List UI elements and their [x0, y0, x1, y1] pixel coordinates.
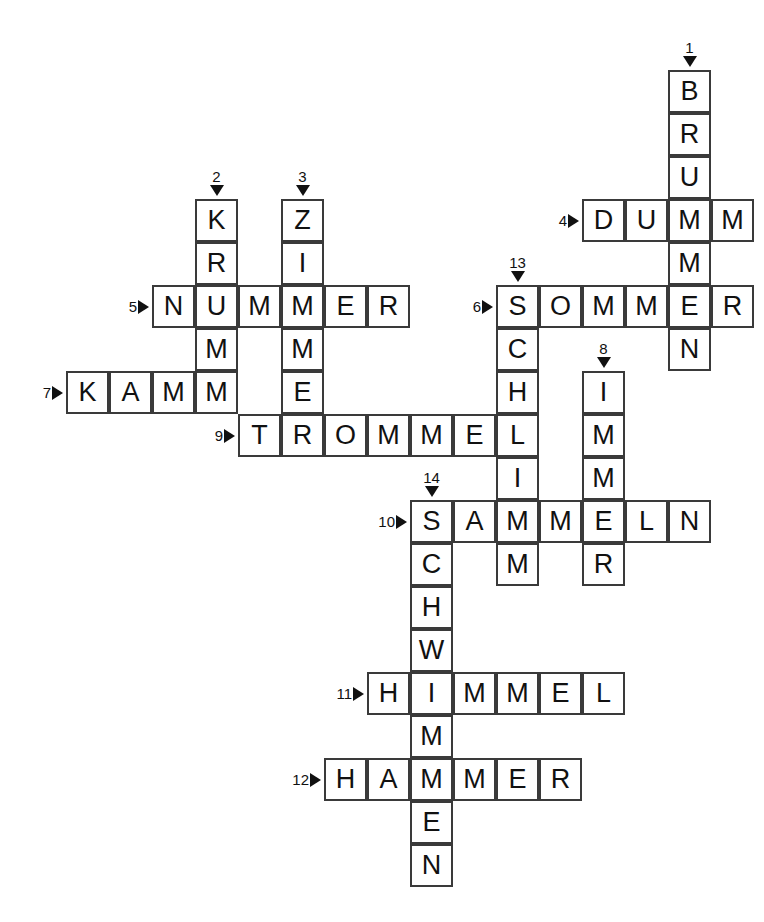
grid-cell[interactable]: H	[367, 672, 410, 715]
clue-marker-13-down[interactable]: 13	[496, 252, 539, 286]
clue-marker-6-across[interactable]: 6	[456, 285, 493, 328]
grid-cell[interactable]: I	[410, 672, 453, 715]
grid-cell[interactable]: Z	[281, 199, 324, 242]
clue-marker-2-down[interactable]: 2	[195, 166, 238, 200]
grid-cell[interactable]: R	[711, 285, 754, 328]
clue-marker-5-across[interactable]: 5	[112, 285, 149, 328]
grid-cell[interactable]: R	[668, 113, 711, 156]
grid-cell[interactable]: R	[582, 543, 625, 586]
grid-cell[interactable]: M	[711, 199, 754, 242]
grid-cell[interactable]: I	[582, 371, 625, 414]
grid-cell[interactable]: O	[324, 414, 367, 457]
grid-cell[interactable]: E	[668, 285, 711, 328]
clue-marker-11-across[interactable]: 11	[327, 672, 364, 715]
grid-cell[interactable]: A	[453, 500, 496, 543]
grid-cell[interactable]: M	[238, 285, 281, 328]
grid-cell[interactable]: M	[281, 328, 324, 371]
grid-cell[interactable]: M	[668, 242, 711, 285]
grid-cell[interactable]: M	[367, 414, 410, 457]
clue-number: 7	[43, 385, 51, 400]
clue-number: 13	[509, 256, 526, 270]
grid-cell[interactable]: H	[496, 371, 539, 414]
grid-cell[interactable]: H	[324, 758, 367, 801]
clue-marker-4-across[interactable]: 4	[542, 199, 579, 242]
grid-cell[interactable]: M	[496, 543, 539, 586]
grid-cell[interactable]: T	[238, 414, 281, 457]
grid-cell[interactable]: R	[367, 285, 410, 328]
grid-cell[interactable]: U	[625, 199, 668, 242]
grid-cell[interactable]: M	[453, 758, 496, 801]
grid-cell[interactable]: E	[410, 801, 453, 844]
grid-cell[interactable]: S	[410, 500, 453, 543]
arrow-right-icon	[568, 214, 579, 228]
clue-marker-14-down[interactable]: 14	[410, 467, 453, 501]
clue-marker-7-across[interactable]: 7	[26, 371, 63, 414]
grid-cell[interactable]: B	[668, 70, 711, 113]
grid-cell[interactable]: U	[668, 156, 711, 199]
grid-cell[interactable]: M	[410, 715, 453, 758]
arrow-right-icon	[52, 386, 63, 400]
clue-marker-1-down[interactable]: 1	[668, 37, 711, 71]
grid-cell[interactable]: E	[496, 758, 539, 801]
grid-cell[interactable]: M	[668, 199, 711, 242]
grid-cell[interactable]: L	[582, 672, 625, 715]
grid-cell[interactable]: L	[496, 414, 539, 457]
grid-cell[interactable]: N	[668, 328, 711, 371]
grid-cell[interactable]: L	[625, 500, 668, 543]
grid-cell[interactable]: M	[152, 371, 195, 414]
grid-cell[interactable]: D	[582, 199, 625, 242]
grid-cell[interactable]: E	[453, 414, 496, 457]
grid-cell[interactable]: C	[410, 543, 453, 586]
grid-cell[interactable]: R	[281, 414, 324, 457]
clue-number: 11	[336, 686, 352, 701]
grid-cell[interactable]: R	[539, 758, 582, 801]
clue-marker-8-down[interactable]: 8	[582, 338, 625, 372]
grid-cell[interactable]: M	[281, 285, 324, 328]
clue-marker-10-across[interactable]: 10	[370, 500, 407, 543]
arrow-down-icon	[210, 185, 224, 196]
grid-cell[interactable]: M	[625, 285, 668, 328]
grid-cell[interactable]: E	[539, 672, 582, 715]
grid-cell[interactable]: M	[582, 414, 625, 457]
grid-cell[interactable]: N	[152, 285, 195, 328]
grid-cell[interactable]: U	[195, 285, 238, 328]
grid-cell[interactable]: M	[496, 500, 539, 543]
clue-marker-3-down[interactable]: 3	[281, 166, 324, 200]
grid-cell[interactable]: K	[66, 371, 109, 414]
grid-cell[interactable]: M	[195, 371, 238, 414]
grid-cell[interactable]: M	[496, 672, 539, 715]
grid-cell[interactable]: K	[195, 199, 238, 242]
grid-cell[interactable]: I	[281, 242, 324, 285]
arrow-down-icon	[597, 357, 611, 368]
grid-cell[interactable]: W	[410, 629, 453, 672]
grid-cell[interactable]: O	[539, 285, 582, 328]
grid-cell[interactable]: M	[539, 500, 582, 543]
clue-number: 10	[378, 514, 395, 529]
grid-cell[interactable]: E	[324, 285, 367, 328]
clue-number: 5	[129, 299, 137, 314]
grid-cell[interactable]: M	[195, 328, 238, 371]
crossword-puzzle: BRUKZDUMMRIMNUMMERSOMMERMMCNKAMMEHITROMM…	[0, 0, 764, 922]
clue-marker-9-across[interactable]: 9	[198, 414, 235, 457]
arrow-right-icon	[353, 687, 364, 701]
grid-cell[interactable]: M	[410, 414, 453, 457]
grid-cell[interactable]: E	[582, 500, 625, 543]
arrow-right-icon	[396, 515, 407, 529]
grid-cell[interactable]: R	[195, 242, 238, 285]
grid-cell[interactable]: C	[496, 328, 539, 371]
grid-cell[interactable]: A	[367, 758, 410, 801]
grid-cell[interactable]: M	[410, 758, 453, 801]
grid-cell[interactable]: M	[453, 672, 496, 715]
grid-cell[interactable]: M	[582, 285, 625, 328]
clue-marker-12-across[interactable]: 12	[284, 758, 321, 801]
grid-cell[interactable]: N	[410, 844, 453, 887]
grid-cell[interactable]: M	[582, 457, 625, 500]
grid-cell[interactable]: A	[109, 371, 152, 414]
clue-number: 14	[423, 471, 440, 485]
grid-cell[interactable]: S	[496, 285, 539, 328]
grid-cell[interactable]: I	[496, 457, 539, 500]
clue-number: 2	[212, 170, 220, 184]
grid-cell[interactable]: H	[410, 586, 453, 629]
grid-cell[interactable]: E	[281, 371, 324, 414]
grid-cell[interactable]: N	[668, 500, 711, 543]
